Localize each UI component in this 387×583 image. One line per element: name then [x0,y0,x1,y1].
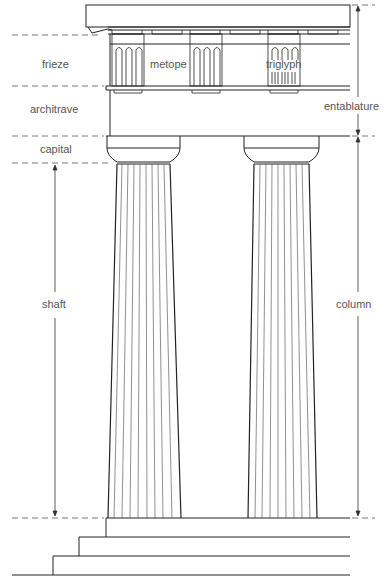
label-capital: capital [40,143,72,155]
capital-1 [107,136,180,164]
label-entablature: entablature [324,100,379,112]
frieze [106,34,350,90]
label-shaft: shaft [42,298,66,310]
shaft-1 [108,164,181,518]
shaft-2 [248,164,317,518]
doric-order-diagram [0,0,387,583]
dimension-arrows [53,6,360,516]
label-frieze: frieze [42,58,69,70]
label-metope: metope [150,58,187,70]
label-architrave: architrave [30,103,78,115]
label-triglyph: triglyph [266,58,301,70]
guide-lines [12,5,375,518]
capital-2 [244,136,319,164]
architrave [106,90,350,136]
label-column: column [336,298,371,310]
cornice [86,5,350,34]
mutules [112,30,338,34]
stylobate-steps [12,518,350,575]
